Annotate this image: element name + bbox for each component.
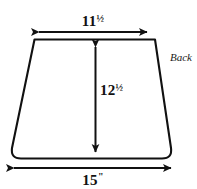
bottom-width-label: 15" (82, 171, 103, 188)
trapezoid-outline (12, 40, 171, 159)
lampshade-dimension-figure: 11½ 12½ 15" Back (0, 0, 197, 189)
bottom-width-unit: " (98, 171, 104, 182)
top-width-whole: 11 (82, 13, 97, 29)
bottom-width-whole: 15 (82, 172, 98, 188)
height-whole: 12 (100, 82, 116, 98)
back-annotation-label: Back (170, 51, 193, 63)
top-width-fraction: ½ (96, 13, 104, 24)
top-width-label: 11½ (82, 13, 105, 29)
height-fraction: ½ (116, 82, 124, 93)
height-label: 12½ (100, 82, 124, 98)
diagram-canvas: 11½ 12½ 15" Back (0, 0, 197, 189)
